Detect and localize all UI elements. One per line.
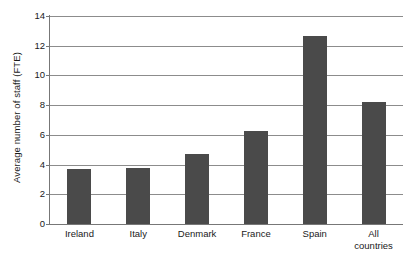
- bar[interactable]: [244, 131, 268, 224]
- x-axis-label: Italy: [109, 228, 168, 240]
- y-tick-label-14: 14: [5, 10, 45, 21]
- x-axis-labels-group: IrelandItalyDenmarkFranceSpainAll countr…: [50, 228, 403, 268]
- bar[interactable]: [67, 169, 91, 224]
- bar-chart-figure: Average number of staff (FTE) 0246810121…: [0, 0, 412, 268]
- y-tick-label-6: 6: [5, 129, 45, 140]
- y-tick-mark-0: [46, 224, 50, 225]
- bar-slot: [227, 16, 286, 224]
- y-tick-label-8: 8: [5, 99, 45, 110]
- bar-slot: [109, 16, 168, 224]
- x-axis-label: Denmark: [168, 228, 227, 240]
- x-axis-label: All countries: [344, 228, 403, 251]
- bar-slot: [344, 16, 403, 224]
- bar[interactable]: [126, 168, 150, 224]
- bar-slot: [50, 16, 109, 224]
- bar[interactable]: [303, 36, 327, 224]
- x-axis-label: Ireland: [50, 228, 109, 240]
- y-tick-label-0: 0: [5, 218, 45, 229]
- x-axis-label: France: [227, 228, 286, 240]
- clipped-chart-title: [0, 0, 412, 5]
- gridline-0: [50, 224, 403, 225]
- y-tick-label-2: 2: [5, 188, 45, 199]
- y-tick-label-10: 10: [5, 69, 45, 80]
- bars-group: [50, 16, 403, 224]
- x-axis-label: Spain: [285, 228, 344, 240]
- y-tick-label-4: 4: [5, 159, 45, 170]
- plot-area: 02468101214: [50, 16, 403, 224]
- bar[interactable]: [362, 102, 386, 224]
- y-tick-label-12: 12: [5, 40, 45, 51]
- bar-slot: [168, 16, 227, 224]
- bar-slot: [285, 16, 344, 224]
- bar[interactable]: [185, 154, 209, 224]
